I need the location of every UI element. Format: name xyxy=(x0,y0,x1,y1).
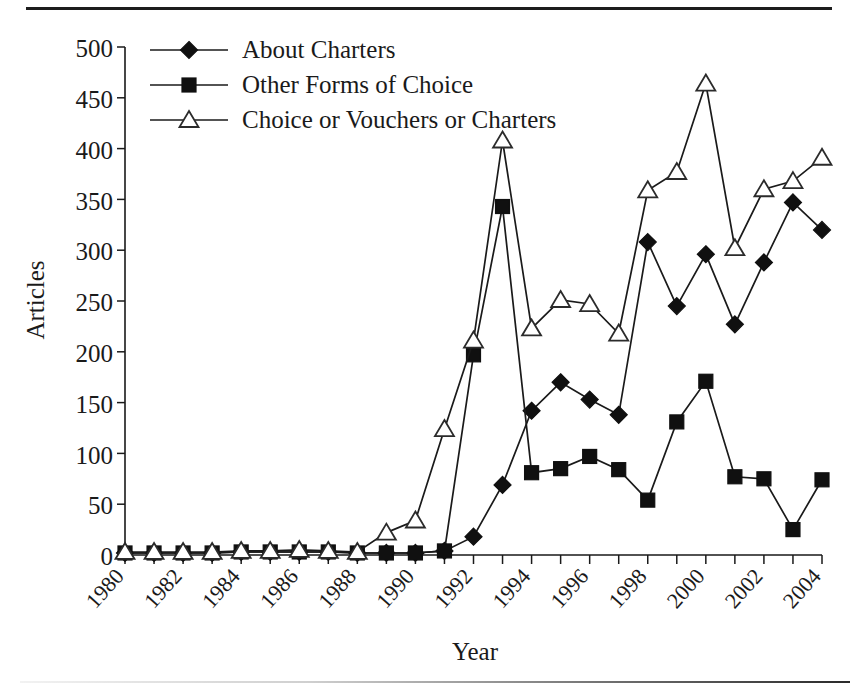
data-point-marker xyxy=(493,131,512,147)
data-point-marker xyxy=(755,254,772,271)
data-point-marker xyxy=(670,415,684,429)
data-point-marker xyxy=(783,172,802,188)
data-series xyxy=(116,75,832,559)
data-point-marker xyxy=(754,180,773,196)
data-point-marker xyxy=(696,75,715,91)
legend-label: About Charters xyxy=(242,36,395,63)
data-point-marker xyxy=(494,476,511,493)
data-point-marker xyxy=(813,149,832,165)
y-tick-label-150: 150 xyxy=(76,391,114,418)
x-tick-label: 1990 xyxy=(371,564,419,613)
x-tick-label: 2004 xyxy=(778,564,826,613)
figure-container: Articles 500 450 400 350 300 250 200 150… xyxy=(0,0,859,690)
data-point-marker xyxy=(551,291,570,307)
data-point-marker xyxy=(464,332,483,348)
data-point-marker xyxy=(554,462,568,476)
data-point-marker xyxy=(437,544,451,558)
data-series xyxy=(118,200,829,560)
x-axis-title: Year xyxy=(452,638,499,665)
y-tick-label-400: 400 xyxy=(76,137,114,164)
series-layer xyxy=(116,75,832,562)
x-tick-label: 1986 xyxy=(255,564,303,613)
data-point-marker xyxy=(641,493,655,507)
line-chart: Articles 500 450 400 350 300 250 200 150… xyxy=(0,0,859,690)
data-point-marker xyxy=(435,420,454,436)
data-point-marker xyxy=(786,523,800,537)
data-point-marker xyxy=(465,528,482,545)
y-tick-label-100: 100 xyxy=(76,442,114,469)
series-line xyxy=(125,202,822,553)
data-point-marker xyxy=(668,298,685,315)
legend-item: About Charters xyxy=(150,36,395,63)
data-point-marker xyxy=(377,524,396,540)
series-line xyxy=(125,207,822,554)
legend-marker xyxy=(181,42,198,59)
data-point-marker xyxy=(815,473,829,487)
legend-item: Other Forms of Choice xyxy=(150,71,473,98)
data-point-marker xyxy=(699,374,713,388)
x-tick-label: 1984 xyxy=(197,564,245,613)
chart-legend: About ChartersOther Forms of ChoiceChoic… xyxy=(150,36,556,133)
x-tick-label: 2000 xyxy=(662,564,710,613)
data-point-marker xyxy=(667,163,686,179)
x-tick-label: 1992 xyxy=(429,564,477,613)
data-series xyxy=(117,194,831,562)
data-point-marker xyxy=(379,546,393,560)
y-tick-label-500: 500 xyxy=(76,35,114,62)
x-tick-label: 1996 xyxy=(545,564,593,613)
legend-marker xyxy=(180,111,199,127)
x-tick-label: 1988 xyxy=(313,564,361,613)
data-point-marker xyxy=(726,316,743,333)
data-point-marker xyxy=(697,246,714,263)
data-point-marker xyxy=(610,406,627,423)
legend-item: Choice or Vouchers or Charters xyxy=(150,106,556,133)
legend-marker xyxy=(182,78,196,92)
legend-label: Other Forms of Choice xyxy=(242,71,473,98)
x-tick-label: 1998 xyxy=(603,564,651,613)
x-tick-label: 1980 xyxy=(81,564,129,613)
y-tick-label-350: 350 xyxy=(76,188,114,215)
data-point-marker xyxy=(408,546,422,560)
data-point-marker xyxy=(406,511,425,527)
x-tick-label: 1994 xyxy=(487,564,535,613)
data-point-marker xyxy=(639,234,656,251)
y-tick-label-450: 450 xyxy=(76,86,114,113)
bottom-divider-rule xyxy=(20,681,850,683)
series-line xyxy=(125,84,822,552)
data-point-marker xyxy=(728,470,742,484)
x-tick-label-layer: 1980198219841986198819901992199419961998… xyxy=(81,564,826,613)
y-tick-label-200: 200 xyxy=(76,340,114,367)
data-point-marker xyxy=(496,200,510,214)
data-point-marker xyxy=(583,449,597,463)
data-point-marker xyxy=(757,472,771,486)
y-tick-label-250: 250 xyxy=(76,289,114,316)
data-point-marker xyxy=(725,239,744,255)
y-tick-label-300: 300 xyxy=(76,238,114,265)
y-tick-label-50: 50 xyxy=(88,492,113,519)
y-axis-title: Articles xyxy=(22,260,49,339)
x-tick-label: 1982 xyxy=(139,564,187,613)
data-point-marker xyxy=(581,391,598,408)
data-point-marker xyxy=(525,466,539,480)
legend-label: Choice or Vouchers or Charters xyxy=(242,106,556,133)
data-point-marker xyxy=(612,463,626,477)
data-point-marker xyxy=(638,181,657,197)
x-tick-label: 2002 xyxy=(720,564,768,613)
